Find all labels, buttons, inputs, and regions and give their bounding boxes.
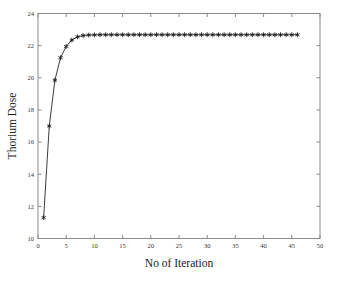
- chart-figure: 05101520253035404550 1012141618202224 No…: [0, 0, 343, 284]
- data-point-marker: [58, 55, 62, 60]
- y-tick-label: 18: [28, 106, 35, 113]
- data-point-marker: [47, 124, 51, 129]
- x-tick-label: 40: [260, 242, 267, 249]
- x-tick-label: 5: [65, 242, 68, 249]
- x-tick-label: 15: [119, 242, 126, 249]
- data-series-thorium-dose: [42, 32, 300, 220]
- x-tick-label: 50: [317, 242, 324, 249]
- x-tick-label: 35: [232, 242, 239, 249]
- y-tick-label: 12: [28, 203, 35, 210]
- y-axis-ticks: 1012141618202224: [28, 10, 321, 242]
- series-line: [44, 35, 298, 218]
- y-tick-label: 16: [28, 138, 35, 145]
- y-tick-label: 24: [28, 10, 35, 17]
- data-point-marker: [42, 215, 46, 220]
- thorium-dose-convergence-plot: 05101520253035404550 1012141618202224 No…: [0, 0, 343, 284]
- x-axis-ticks: 05101520253035404550: [36, 14, 323, 250]
- x-tick-label: 45: [289, 242, 296, 249]
- y-tick-label: 20: [28, 74, 35, 81]
- x-tick-label: 30: [204, 242, 211, 249]
- y-tick-label: 10: [28, 235, 35, 242]
- plot-frame: [38, 14, 320, 239]
- y-tick-label: 22: [28, 42, 35, 49]
- data-point-marker: [53, 78, 57, 83]
- y-tick-label: 14: [28, 171, 35, 178]
- axes-border: [38, 14, 320, 239]
- x-tick-label: 25: [176, 242, 183, 249]
- x-tick-label: 20: [148, 242, 155, 249]
- x-axis-label: No of Iteration: [145, 257, 214, 269]
- x-tick-label: 10: [91, 242, 98, 249]
- y-axis-label: Thorium Dose: [6, 93, 18, 160]
- x-tick-label: 0: [36, 242, 39, 249]
